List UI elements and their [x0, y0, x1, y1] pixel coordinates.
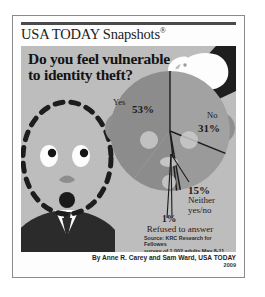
source-line-2: survey of 1,002 adults May 8-11 [144, 248, 232, 252]
label-yes: Yes [113, 97, 125, 107]
registered-mark-icon: ® [160, 26, 166, 35]
source-note: Source: KRC Research for Fellowes survey… [144, 235, 232, 252]
snapshot-infographic: USA TODAY Snapshots® Do you feel vulnera… [0, 0, 265, 297]
copyright-year: 2009 [21, 262, 236, 268]
label-no: No [207, 110, 217, 120]
source-line-1: Source: KRC Research for Fellowes [144, 235, 232, 248]
masthead-title: USA TODAY Snapshots® [21, 26, 236, 43]
label-neither: Neither yes/no [188, 196, 234, 215]
value-yes: 53% [132, 103, 154, 115]
masthead-text: USA TODAY Snapshots [21, 26, 160, 42]
art-panel: Do you feel vulnerable to identity theft… [21, 46, 236, 252]
masthead-rule [21, 22, 236, 25]
label-refused: Refused to answer [136, 224, 224, 235]
callout-leader-lines [21, 46, 236, 252]
value-no: 31% [198, 122, 220, 134]
byline: By Anne R. Carey and Sam Ward, USA TODAY [21, 254, 236, 261]
value-refused: 1% [162, 214, 176, 224]
